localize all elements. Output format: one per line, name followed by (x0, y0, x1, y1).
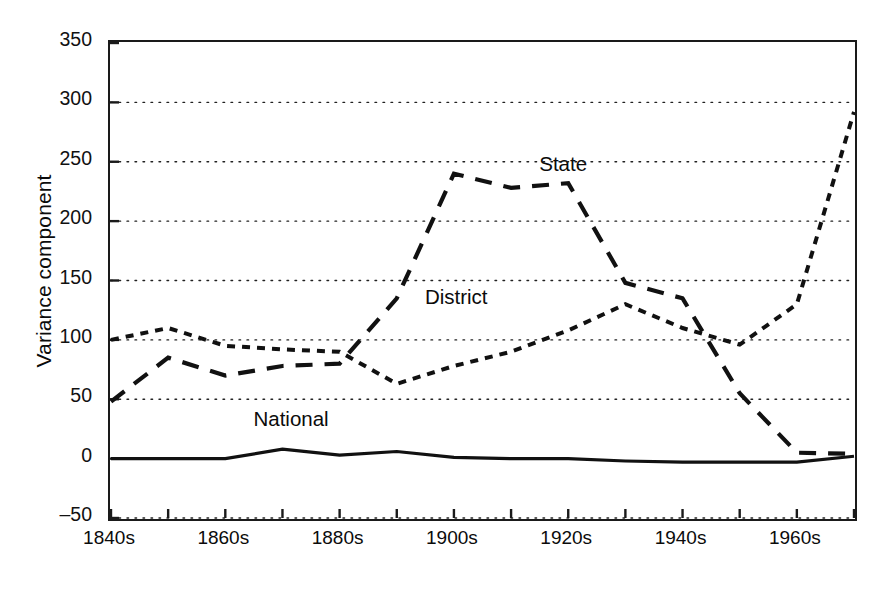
x-tick-label: 1920s (521, 527, 611, 549)
y-tick-label: 150 (0, 266, 92, 289)
x-tick-label: 1880s (293, 527, 383, 549)
y-tick-label: 350 (0, 28, 92, 51)
y-tick-label: 50 (0, 384, 92, 407)
series-line-state (111, 174, 854, 454)
y-tick-label: 300 (0, 87, 92, 110)
chart-svg (110, 42, 855, 519)
y-axis-ticks (110, 43, 119, 518)
x-tick-label: 1960s (750, 527, 840, 549)
series-line-district (111, 112, 854, 384)
y-tick-label: 250 (0, 147, 92, 170)
plot-area (108, 40, 857, 521)
y-tick-label: 100 (0, 325, 92, 348)
y-tick-label: 200 (0, 206, 92, 229)
x-tick-label: 1840s (64, 527, 154, 549)
x-tick-label: 1940s (636, 527, 726, 549)
y-tick-label: 0 (0, 444, 92, 467)
series-line-national (111, 449, 854, 462)
data-series (111, 112, 854, 462)
x-tick-label: 1900s (407, 527, 497, 549)
x-axis-ticks (111, 509, 854, 518)
y-tick-label: –50 (0, 503, 92, 526)
gridlines (111, 102, 854, 518)
chart-figure: Variance component –50050100150200250300… (0, 0, 881, 597)
x-tick-label: 1860s (178, 527, 268, 549)
